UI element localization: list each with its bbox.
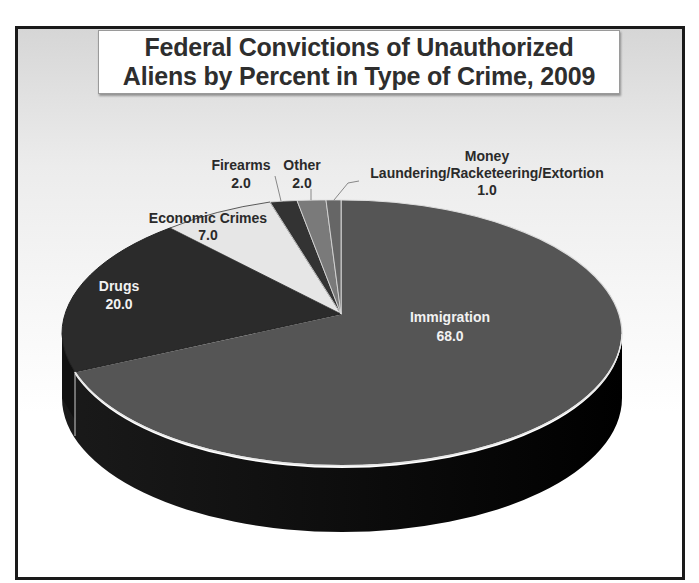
svg-text:20.0: 20.0	[105, 296, 132, 312]
svg-text:7.0: 7.0	[198, 227, 218, 243]
svg-text:1.0: 1.0	[477, 182, 497, 198]
svg-text:Other: Other	[283, 157, 321, 173]
svg-text:68.0: 68.0	[436, 328, 463, 344]
svg-text:Laundering/Racketeering/Extort: Laundering/Racketeering/Extortion	[370, 165, 603, 181]
svg-text:Money: Money	[465, 148, 510, 164]
label-money-laundering: Money Laundering/Racketeering/Extortion …	[370, 148, 603, 198]
leader-line-money	[334, 181, 359, 200]
label-firearms: Firearms 2.0	[211, 157, 270, 191]
svg-text:2.0: 2.0	[231, 175, 251, 191]
svg-text:Firearms: Firearms	[211, 157, 270, 173]
svg-text:Drugs: Drugs	[99, 278, 140, 294]
svg-text:2.0: 2.0	[292, 175, 312, 191]
label-other: Other 2.0	[283, 157, 321, 191]
svg-text:Economic Crimes: Economic Crimes	[149, 210, 267, 226]
leader-line-firearms	[275, 176, 281, 201]
pie-chart: Immigration 68.0 Drugs 20.0 Economic Cri…	[0, 0, 699, 583]
svg-text:Immigration: Immigration	[410, 309, 490, 325]
